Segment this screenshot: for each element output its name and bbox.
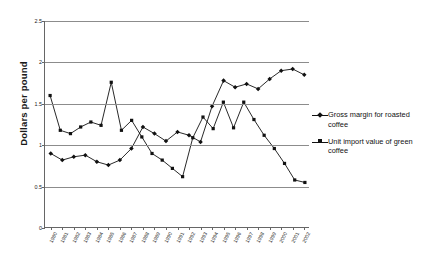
data-point: [263, 134, 266, 137]
series-line: [51, 69, 304, 165]
x-tick-mark: [224, 227, 225, 230]
gridline-y: [45, 187, 309, 188]
data-point: [191, 136, 194, 139]
gridline-y: [45, 21, 309, 22]
x-tick-label: 1996: [232, 231, 243, 244]
gridline-y: [45, 104, 309, 105]
data-point: [152, 131, 157, 136]
x-tick-mark: [51, 227, 52, 230]
y-tick-label: 2: [39, 59, 42, 65]
data-point: [106, 163, 111, 168]
data-point: [290, 67, 295, 72]
data-point: [201, 115, 204, 118]
data-point: [302, 73, 307, 78]
x-tick-label: 1983: [82, 231, 93, 244]
data-point: [95, 159, 100, 164]
data-point: [140, 135, 143, 138]
data-point: [60, 158, 65, 163]
plot-area: 00.511.522.51980198119821983198419851986…: [44, 21, 309, 228]
x-tick-label: 1980: [48, 231, 59, 244]
data-point: [150, 152, 153, 155]
x-tick-label: 1981: [59, 231, 70, 244]
y-tick-label: 2.5: [35, 18, 43, 24]
data-point: [171, 167, 174, 170]
gridline-y: [45, 62, 309, 63]
x-tick-mark: [143, 227, 144, 230]
x-tick-label: 1993: [197, 231, 208, 244]
x-tick-label: 1992: [186, 231, 197, 244]
x-tick-mark: [247, 227, 248, 230]
data-point: [83, 153, 88, 158]
x-tick-label: 1989: [151, 231, 162, 244]
y-tick-label: 1.5: [35, 101, 43, 107]
x-tick-mark: [270, 227, 271, 230]
legend-marker-icon: [312, 138, 328, 147]
x-tick-mark: [120, 227, 121, 230]
data-point: [303, 181, 306, 184]
legend-label: Unit import value of green coffee: [328, 137, 418, 157]
data-point: [252, 118, 255, 121]
y-axis-title: Dollars per pound: [18, 49, 29, 159]
x-tick-label: 1990: [163, 231, 174, 244]
x-tick-mark: [212, 227, 213, 230]
data-point: [232, 126, 235, 129]
x-tick-label: 1994: [209, 231, 220, 244]
data-point: [110, 81, 113, 84]
x-tick-mark: [74, 227, 75, 230]
x-tick-label: 1982: [71, 231, 82, 244]
x-tick-label: 1991: [174, 231, 185, 244]
x-tick-label: 1986: [117, 231, 128, 244]
x-tick-label: 1987: [128, 231, 139, 244]
data-point: [233, 85, 238, 90]
data-point: [89, 120, 92, 123]
x-tick-mark: [178, 227, 179, 230]
data-point: [283, 162, 286, 165]
x-tick-mark: [201, 227, 202, 230]
data-point: [59, 129, 62, 132]
y-tick-mark: [42, 104, 45, 105]
y-tick-mark: [42, 62, 45, 63]
data-point: [49, 94, 52, 97]
x-tick-mark: [258, 227, 259, 230]
x-tick-mark: [304, 227, 305, 230]
data-point: [79, 125, 82, 128]
x-tick-mark: [189, 227, 190, 230]
legend-item[interactable]: Gross margin for roasted coffee: [312, 110, 418, 130]
x-tick-mark: [62, 227, 63, 230]
x-tick-mark: [85, 227, 86, 230]
y-tick-mark: [42, 145, 45, 146]
data-point: [187, 133, 192, 138]
x-tick-label: 1997: [243, 231, 254, 244]
x-tick-mark: [108, 227, 109, 230]
x-tick-label: 1988: [140, 231, 151, 244]
data-point: [181, 175, 184, 178]
data-point: [244, 82, 249, 87]
data-point: [141, 125, 146, 130]
y-tick-label: 1: [39, 142, 42, 148]
x-tick-mark: [293, 227, 294, 230]
chart-legend: Gross margin for roasted coffeeUnit impo…: [312, 110, 418, 163]
x-tick-mark: [166, 227, 167, 230]
data-point: [198, 140, 203, 145]
data-point: [69, 132, 72, 135]
data-point: [120, 129, 123, 132]
x-tick-label: 1985: [105, 231, 116, 244]
data-point: [273, 147, 276, 150]
data-point: [221, 78, 226, 83]
chart-container: Dollars per pound 00.511.522.51980198119…: [0, 0, 422, 266]
legend-item[interactable]: Unit import value of green coffee: [312, 137, 418, 157]
x-tick-label: 1995: [220, 231, 231, 244]
x-tick-label: 2002: [301, 231, 312, 244]
x-tick-mark: [281, 227, 282, 230]
legend-label: Gross margin for roasted coffee: [328, 110, 418, 130]
data-point: [293, 178, 296, 181]
x-tick-label: 2001: [289, 231, 300, 244]
x-tick-mark: [97, 227, 98, 230]
x-tick-label: 2000: [278, 231, 289, 244]
data-point: [212, 127, 215, 130]
x-tick-mark: [131, 227, 132, 230]
x-tick-label: 1999: [266, 231, 277, 244]
x-tick-mark: [154, 227, 155, 230]
gridline-y: [45, 145, 309, 146]
data-point: [130, 119, 133, 122]
